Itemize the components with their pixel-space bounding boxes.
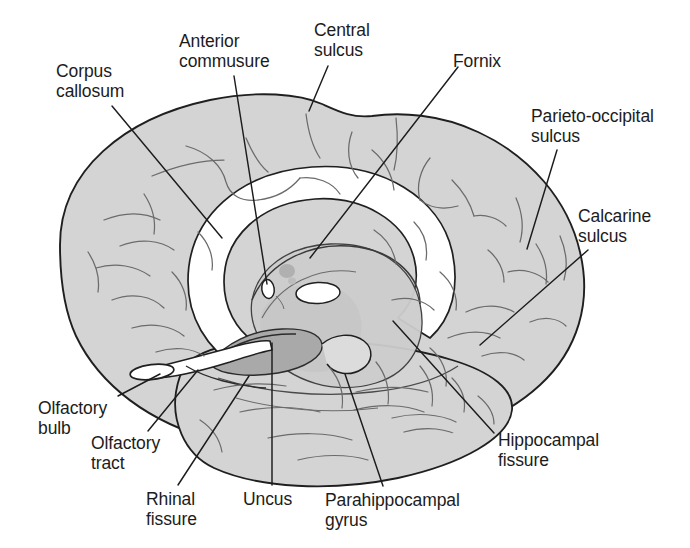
- label-parieto-occipital-sulcus: Parieto-occipital sulcus: [531, 106, 654, 146]
- label-fornix: Fornix: [453, 51, 501, 71]
- label-rhinal-fissure: Rhinal fissure: [146, 489, 197, 529]
- label-anterior-commusure: Anterior commusure: [179, 31, 270, 71]
- label-hippocampal-fissure: Hippocampal fissure: [498, 430, 599, 470]
- label-corpus-callosum: Corpus callosum: [56, 61, 124, 101]
- label-parahippocampal-gyrus: Parahippocampal gyrus: [325, 490, 460, 530]
- label-calcarine-sulcus: Calcarine sulcus: [578, 206, 651, 246]
- label-central-sulcus: Central sulcus: [314, 20, 370, 60]
- label-olfactory-bulb: Olfactory bulb: [38, 398, 107, 438]
- label-olfactory-tract: Olfactory tract: [91, 433, 160, 473]
- brain-diagram-figure: Corpus callosum Anterior commusure Centr…: [0, 0, 690, 548]
- label-uncus: Uncus: [243, 489, 292, 509]
